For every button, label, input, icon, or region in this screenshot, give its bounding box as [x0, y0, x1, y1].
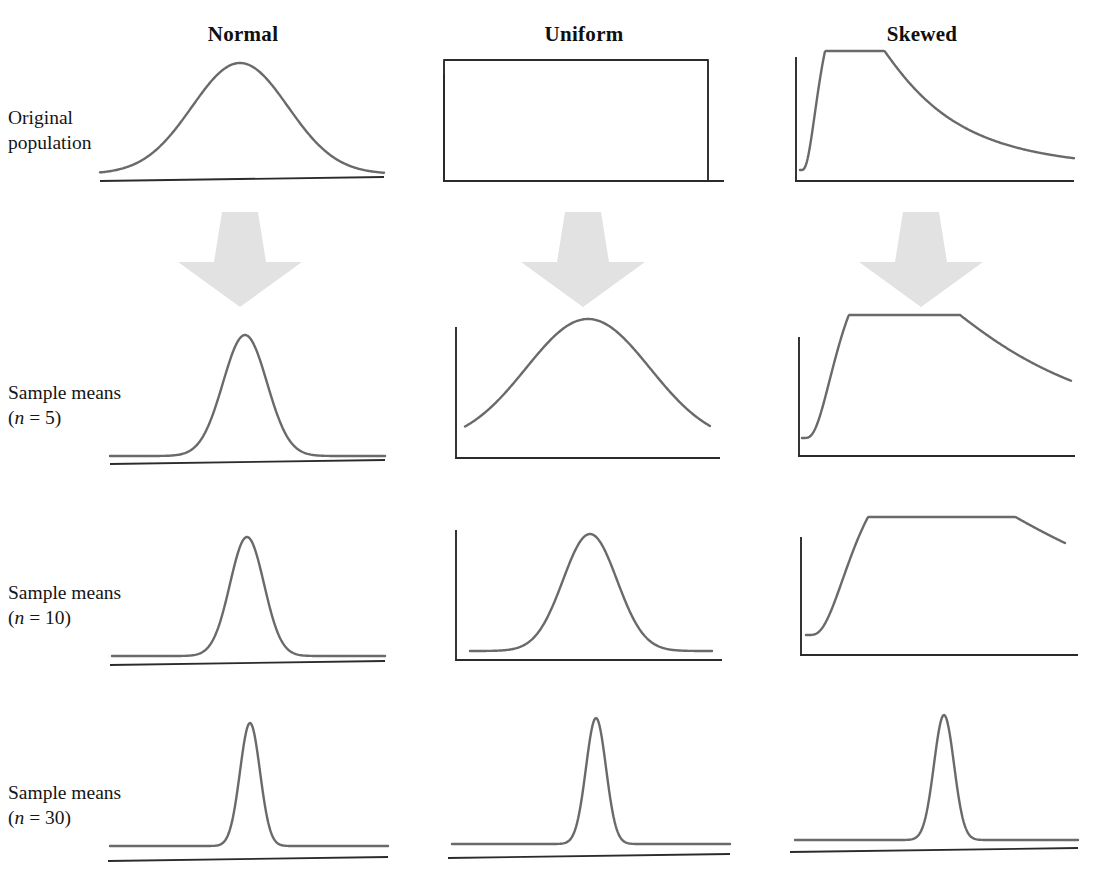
- x-axis-line: [448, 854, 730, 858]
- distribution-curve-skewed: [802, 315, 1071, 438]
- clt-figure: NormalUniformSkewed OriginalpopulationSa…: [0, 0, 1095, 877]
- row-label-n-symbol: n: [15, 407, 25, 428]
- row-label-sample-means-n10: Sample means(n = 10): [8, 580, 121, 631]
- row-label-sample-size: = 5): [24, 407, 61, 428]
- row-label-line1: Original: [8, 107, 73, 128]
- x-axis-line: [790, 848, 1078, 852]
- distribution-curve-normal: [110, 723, 388, 846]
- x-axis-line: [110, 460, 385, 464]
- distribution-curve-normal: [795, 715, 1078, 840]
- plot-normal-n5: [110, 335, 385, 464]
- distribution-curve-normal: [465, 319, 710, 427]
- row-label-sample-size: = 10): [24, 607, 71, 628]
- row-label-line2: population: [8, 130, 91, 155]
- distribution-curve-skewed: [806, 517, 1065, 635]
- arrow-normal-icon: [178, 212, 302, 307]
- plot-normal-n30: [108, 723, 388, 861]
- distribution-curve-normal: [100, 63, 384, 173]
- distribution-curve-normal: [112, 537, 385, 656]
- plot-uniform-n30: [448, 718, 730, 858]
- row-label-n-symbol: n: [15, 607, 25, 628]
- row-label-line2: (n = 5): [8, 405, 121, 430]
- arrow-skewed-icon: [859, 212, 983, 307]
- distribution-curve-normal: [470, 534, 712, 651]
- row-label-sample-means-n30: Sample means(n = 30): [8, 780, 121, 831]
- column-heading-normal: Normal: [123, 22, 363, 47]
- row-label-sample-means-n5: Sample means(n = 5): [8, 380, 121, 431]
- plot-uniform-n10: [455, 530, 722, 660]
- x-axis-line: [110, 661, 385, 665]
- row-label-line1: Sample means: [8, 582, 121, 603]
- column-heading-skewed: Skewed: [802, 22, 1042, 47]
- plot-uniform-n5: [455, 319, 720, 458]
- plot-normal-n10: [110, 537, 385, 665]
- row-label-n-symbol: n: [15, 807, 25, 828]
- plot-skewed-n30: [790, 715, 1078, 852]
- row-label-line1: Sample means: [8, 382, 121, 403]
- row-label-line2: (n = 30): [8, 805, 121, 830]
- x-axis-line: [100, 177, 384, 181]
- x-axis-line: [108, 857, 388, 861]
- arrows-layer: [178, 212, 983, 307]
- arrow-uniform-icon: [521, 212, 645, 307]
- distribution-plots-canvas: [0, 0, 1095, 877]
- plot-uniform-original: [443, 60, 724, 181]
- distribution-curve-normal: [452, 718, 730, 844]
- distribution-curve-skewed: [800, 51, 1074, 170]
- plot-skewed-original: [795, 51, 1074, 181]
- plot-skewed-n5: [798, 315, 1075, 456]
- row-label-line1: Sample means: [8, 782, 121, 803]
- distribution-curve-normal: [110, 335, 385, 456]
- row-label-line2: (n = 10): [8, 605, 121, 630]
- plot-normal-original: [100, 63, 384, 181]
- column-heading-uniform: Uniform: [464, 22, 704, 47]
- panels-layer: [100, 51, 1078, 861]
- row-label-sample-size: = 30): [24, 807, 71, 828]
- distribution-curve-uniform: [444, 60, 708, 181]
- plot-skewed-n10: [800, 517, 1078, 655]
- row-label-original-population: Originalpopulation: [8, 105, 91, 156]
